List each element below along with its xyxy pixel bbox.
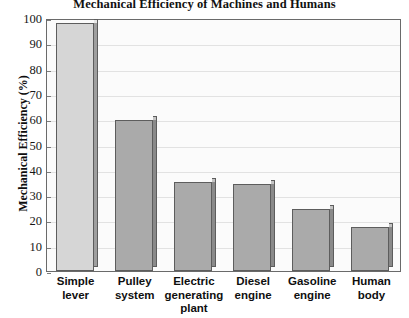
bar bbox=[351, 223, 393, 271]
x-tick-label-line: lever bbox=[46, 289, 105, 303]
x-tick-label-line: engine bbox=[224, 289, 283, 303]
x-tick-label: Electricgeneratingplant bbox=[164, 275, 223, 316]
x-tick-label-line: Simple bbox=[46, 275, 105, 289]
bar-front-face bbox=[115, 120, 153, 271]
bar-side-face bbox=[330, 205, 334, 267]
bar-top-face bbox=[330, 205, 334, 209]
y-tick-label: 100 bbox=[14, 12, 42, 27]
bar-side-face bbox=[212, 178, 216, 267]
bar bbox=[233, 180, 275, 271]
bars-layer bbox=[47, 20, 400, 271]
y-tick-label: 90 bbox=[14, 37, 42, 52]
x-tick-label: Humanbody bbox=[342, 275, 401, 302]
bar-front-face bbox=[233, 184, 271, 271]
y-tick-label: 0 bbox=[14, 265, 42, 280]
bar-top-face bbox=[389, 223, 393, 227]
y-tick-label: 70 bbox=[14, 87, 42, 102]
y-tick-label: 40 bbox=[14, 163, 42, 178]
bar-chart: Mechanical Efficiency of Machines and Hu… bbox=[0, 0, 409, 318]
bar-top-face bbox=[271, 180, 275, 184]
x-tick-label-line: plant bbox=[164, 302, 223, 316]
x-tick-label-line: Human bbox=[342, 275, 401, 289]
x-tick-label-line: generating bbox=[164, 289, 223, 303]
bar-top-face bbox=[94, 19, 98, 23]
x-tick-label-line: Diesel bbox=[224, 275, 283, 289]
x-tick-label-line: Electric bbox=[164, 275, 223, 289]
plot-area bbox=[46, 19, 401, 272]
y-tick-label: 60 bbox=[14, 113, 42, 128]
x-tick-label: Gasolineengine bbox=[283, 275, 342, 302]
y-tick-label: 50 bbox=[14, 138, 42, 153]
bar bbox=[292, 205, 334, 271]
bar-front-face bbox=[174, 182, 212, 271]
x-tick-label: Simplelever bbox=[46, 275, 105, 302]
bar-side-face bbox=[389, 223, 393, 267]
bar-front-face bbox=[292, 209, 330, 271]
x-axis-tick-labels: SimpleleverPulleysystemElectricgeneratin… bbox=[46, 275, 401, 318]
bar bbox=[56, 19, 98, 271]
x-tick-label: Dieselengine bbox=[224, 275, 283, 302]
x-tick-label-line: system bbox=[105, 289, 164, 303]
bar bbox=[115, 116, 157, 271]
x-tick-label-line: Pulley bbox=[105, 275, 164, 289]
y-tick-label: 80 bbox=[14, 62, 42, 77]
chart-title: Mechanical Efficiency of Machines and Hu… bbox=[0, 0, 409, 12]
bar-side-face bbox=[153, 116, 157, 267]
y-tick-label: 10 bbox=[14, 239, 42, 254]
x-tick-label-line: body bbox=[342, 289, 401, 303]
y-tick-label: 30 bbox=[14, 189, 42, 204]
x-tick-label-line: Gasoline bbox=[283, 275, 342, 289]
bar-front-face bbox=[56, 23, 94, 271]
bar-top-face bbox=[153, 116, 157, 120]
bar-top-face bbox=[212, 178, 216, 182]
x-tick-label: Pulleysystem bbox=[105, 275, 164, 302]
bar-side-face bbox=[271, 180, 275, 267]
bar-side-face bbox=[94, 19, 98, 267]
y-tick-label: 20 bbox=[14, 214, 42, 229]
bar-front-face bbox=[351, 227, 389, 271]
x-tick-label-line: engine bbox=[283, 289, 342, 303]
y-axis-tick-labels: 1009080706050403020100 bbox=[14, 19, 42, 272]
y-tick-mark bbox=[47, 273, 51, 274]
bar bbox=[174, 178, 216, 271]
